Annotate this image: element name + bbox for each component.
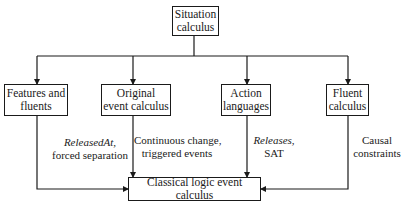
action-languages-node: Action languages bbox=[221, 84, 271, 116]
edge-label-original: Continuous change, triggered events bbox=[134, 134, 220, 160]
node-label: Situation bbox=[175, 8, 217, 21]
situation-calculus-node: Situation calculus bbox=[172, 6, 219, 36]
node-label: calculus bbox=[175, 21, 217, 34]
edge-label-line: forced separation bbox=[52, 149, 128, 162]
original-event-calculus-node: Original event calculus bbox=[101, 84, 171, 116]
edge-label-line: SAT bbox=[252, 147, 296, 160]
node-label: event calculus bbox=[103, 100, 168, 113]
node-label: Original bbox=[103, 87, 168, 100]
edge-label-line: Causal bbox=[352, 134, 402, 147]
edge-label-line: ReleasedAt, bbox=[52, 136, 128, 149]
edge-label-fluent: Causal constraints bbox=[352, 134, 402, 160]
node-label: Classical logic event calculus bbox=[129, 176, 260, 202]
node-label: Features and bbox=[7, 87, 65, 100]
edge-label-features: ReleasedAt, forced separation bbox=[52, 136, 128, 162]
fluent-calculus-node: Fluent calculus bbox=[326, 84, 369, 116]
edge-label-line: constraints bbox=[352, 147, 402, 160]
edge-label-line: Releases, bbox=[252, 134, 296, 147]
node-label: Action bbox=[223, 87, 269, 100]
node-label: Fluent bbox=[329, 87, 367, 100]
classical-logic-event-calculus-node: Classical logic event calculus bbox=[128, 177, 261, 201]
edge-label-line: triggered events bbox=[134, 147, 220, 160]
features-and-fluents-node: Features and fluents bbox=[4, 84, 68, 116]
node-label: fluents bbox=[7, 100, 65, 113]
edge-label-action: Releases, SAT bbox=[252, 134, 296, 160]
node-label: languages bbox=[223, 100, 269, 113]
node-label: calculus bbox=[329, 100, 367, 113]
edge-label-line: Continuous change, bbox=[134, 134, 220, 147]
